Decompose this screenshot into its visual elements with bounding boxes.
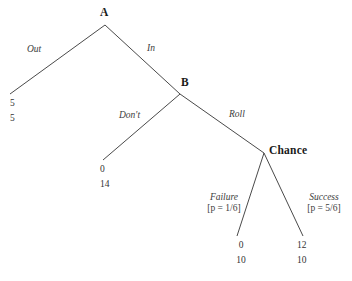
- edge-label-in: In: [147, 43, 155, 53]
- payoff-dont-player1: 0: [100, 162, 110, 177]
- payoff-success: 12 10: [297, 238, 315, 267]
- edge-a-in: [105, 25, 180, 94]
- payoff-out-player1: 5: [10, 96, 15, 111]
- payoff-out-player2: 5: [10, 111, 15, 126]
- payoff-failure-player2: 10: [233, 253, 249, 268]
- edge-label-dont: Don't: [119, 110, 140, 120]
- payoff-dont: 0 14: [100, 162, 110, 191]
- edge-label-out: Out: [27, 44, 41, 54]
- chance-move-success-name: Success: [309, 192, 339, 202]
- chance-move-success: Success [p = 5/6]: [296, 192, 352, 214]
- payoff-success-player1: 12: [297, 238, 315, 253]
- node-label-chance: Chance: [269, 144, 307, 156]
- chance-move-failure-probability: [p = 1/6]: [198, 203, 250, 213]
- edge-b-dont: [103, 94, 180, 160]
- edge-b-roll: [180, 94, 264, 153]
- chance-move-failure: Failure [p = 1/6]: [198, 192, 250, 214]
- edge-label-roll: Roll: [229, 109, 245, 119]
- payoff-failure: 0 10: [233, 238, 249, 267]
- chance-move-success-probability: [p = 5/6]: [296, 203, 352, 213]
- edge-a-out: [10, 25, 105, 94]
- chance-move-failure-name: Failure: [210, 192, 238, 202]
- payoff-failure-player1: 0: [233, 238, 249, 253]
- node-label-b: B: [181, 76, 189, 88]
- payoff-success-player2: 10: [297, 253, 315, 268]
- payoff-out: 5 5: [10, 96, 15, 125]
- node-label-a: A: [100, 6, 109, 18]
- payoff-dont-player2: 14: [100, 177, 110, 192]
